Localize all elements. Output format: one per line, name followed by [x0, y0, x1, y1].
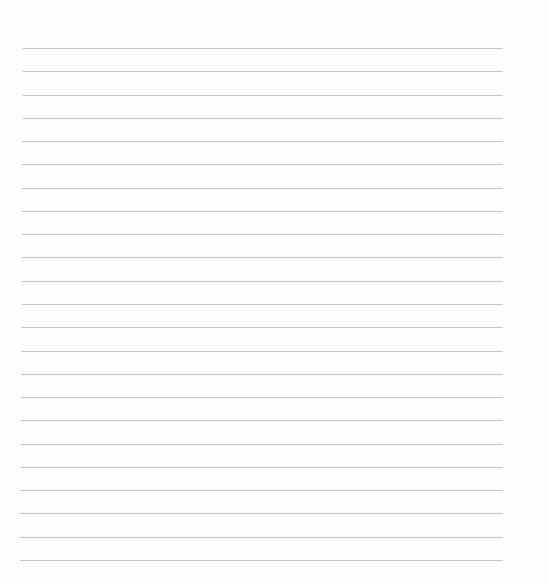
ruled-line	[21, 327, 503, 328]
ruled-line	[21, 444, 503, 445]
lined-page	[0, 0, 548, 585]
ruled-line	[23, 48, 503, 49]
ruled-line	[20, 490, 503, 491]
ruled-line	[21, 467, 503, 468]
ruled-line	[23, 95, 503, 96]
ruled-line	[22, 164, 503, 165]
ruled-line	[23, 118, 503, 119]
ruled-line	[21, 351, 503, 352]
ruled-line	[21, 397, 503, 398]
ruled-line	[22, 281, 503, 282]
ruled-line	[20, 537, 503, 538]
ruled-line	[22, 141, 503, 142]
ruled-line	[20, 513, 503, 514]
ruled-line	[23, 71, 503, 72]
ruled-line	[21, 420, 503, 421]
ruled-line	[22, 211, 503, 212]
ruled-line	[22, 234, 503, 235]
ruled-line	[22, 188, 503, 189]
ruled-line	[20, 560, 503, 561]
ruled-line	[22, 257, 503, 258]
ruled-line	[22, 304, 504, 305]
ruled-line	[21, 374, 503, 375]
